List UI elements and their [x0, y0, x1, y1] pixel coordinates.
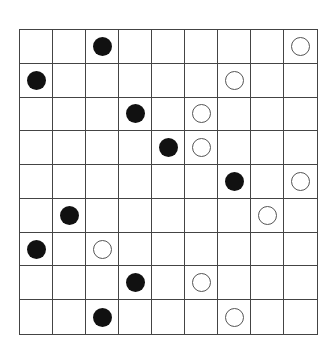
board-cell[interactable] — [185, 30, 218, 64]
board-cell[interactable] — [284, 64, 317, 98]
board-cell[interactable] — [218, 300, 251, 334]
white-stone-icon — [291, 172, 310, 191]
board-cell[interactable] — [185, 300, 218, 334]
board-cell[interactable] — [119, 266, 152, 300]
board-cell[interactable] — [284, 300, 317, 334]
board-cell[interactable] — [185, 131, 218, 165]
board-cell[interactable] — [185, 199, 218, 233]
board-cell[interactable] — [119, 199, 152, 233]
board-cell[interactable] — [119, 233, 152, 267]
black-stone-icon — [27, 240, 46, 259]
board-cell[interactable] — [119, 64, 152, 98]
board-cell[interactable] — [20, 64, 53, 98]
board-cell[interactable] — [152, 199, 185, 233]
board-cell[interactable] — [20, 98, 53, 132]
board-cell[interactable] — [53, 30, 86, 64]
board-cell[interactable] — [152, 233, 185, 267]
board-cell[interactable] — [251, 300, 284, 334]
board-cell[interactable] — [284, 131, 317, 165]
board-cell[interactable] — [53, 165, 86, 199]
black-stone-icon — [225, 172, 244, 191]
board-cell[interactable] — [20, 165, 53, 199]
board-cell[interactable] — [218, 30, 251, 64]
board-cell[interactable] — [86, 233, 119, 267]
board-cell[interactable] — [152, 131, 185, 165]
board-cell[interactable] — [86, 98, 119, 132]
white-stone-icon — [192, 138, 211, 157]
board-cell[interactable] — [53, 98, 86, 132]
white-stone-icon — [258, 206, 277, 225]
board-cell[interactable] — [20, 30, 53, 64]
board-cell[interactable] — [86, 266, 119, 300]
board-cell[interactable] — [251, 30, 284, 64]
board-cell[interactable] — [53, 300, 86, 334]
board-cell[interactable] — [53, 266, 86, 300]
board-cell[interactable] — [284, 98, 317, 132]
board-cell[interactable] — [86, 30, 119, 64]
board-cell[interactable] — [251, 131, 284, 165]
board-cell[interactable] — [53, 199, 86, 233]
board-cell[interactable] — [86, 131, 119, 165]
board-cell[interactable] — [152, 266, 185, 300]
board-cell[interactable] — [20, 131, 53, 165]
board-cell[interactable] — [185, 165, 218, 199]
board-cell[interactable] — [218, 131, 251, 165]
black-stone-icon — [126, 273, 145, 292]
board-cell[interactable] — [86, 165, 119, 199]
board-cell[interactable] — [185, 98, 218, 132]
board-cell[interactable] — [86, 199, 119, 233]
board-cell[interactable] — [20, 300, 53, 334]
board-cell[interactable] — [86, 64, 119, 98]
board-cell[interactable] — [218, 199, 251, 233]
board-cell[interactable] — [119, 30, 152, 64]
board-cell[interactable] — [284, 199, 317, 233]
board-cell[interactable] — [251, 199, 284, 233]
board-cell[interactable] — [185, 233, 218, 267]
board-cell[interactable] — [284, 266, 317, 300]
board-cell[interactable] — [251, 233, 284, 267]
board-cell[interactable] — [20, 233, 53, 267]
game-board — [19, 29, 318, 335]
board-cell[interactable] — [53, 131, 86, 165]
board-cell[interactable] — [119, 165, 152, 199]
board-cell[interactable] — [185, 64, 218, 98]
board-cell[interactable] — [53, 64, 86, 98]
black-stone-icon — [93, 308, 112, 327]
black-stone-icon — [126, 104, 145, 123]
board-cell[interactable] — [20, 199, 53, 233]
black-stone-icon — [27, 71, 46, 90]
board-cell[interactable] — [251, 266, 284, 300]
white-stone-icon — [291, 37, 310, 56]
board-cell[interactable] — [152, 98, 185, 132]
black-stone-icon — [93, 37, 112, 56]
board-cell[interactable] — [86, 300, 119, 334]
board-cell[interactable] — [20, 266, 53, 300]
board-cell[interactable] — [152, 30, 185, 64]
board-cell[interactable] — [152, 300, 185, 334]
board-cell[interactable] — [119, 300, 152, 334]
white-stone-icon — [192, 273, 211, 292]
board-cell[interactable] — [218, 266, 251, 300]
board-cell[interactable] — [251, 98, 284, 132]
board-cell[interactable] — [218, 98, 251, 132]
board-cell[interactable] — [185, 266, 218, 300]
board-cell[interactable] — [284, 30, 317, 64]
white-stone-icon — [192, 104, 211, 123]
board-cell[interactable] — [119, 131, 152, 165]
black-stone-icon — [60, 206, 79, 225]
white-stone-icon — [225, 71, 244, 90]
board-cell[interactable] — [284, 233, 317, 267]
board-cell[interactable] — [251, 64, 284, 98]
white-stone-icon — [93, 240, 112, 259]
board-cell[interactable] — [218, 64, 251, 98]
board-cell[interactable] — [53, 233, 86, 267]
board-cell[interactable] — [218, 165, 251, 199]
white-stone-icon — [225, 308, 244, 327]
board-cell[interactable] — [119, 98, 152, 132]
board-cell[interactable] — [152, 64, 185, 98]
board-cell[interactable] — [218, 233, 251, 267]
board-cell[interactable] — [152, 165, 185, 199]
board-cell[interactable] — [284, 165, 317, 199]
board-cell[interactable] — [251, 165, 284, 199]
black-stone-icon — [159, 138, 178, 157]
